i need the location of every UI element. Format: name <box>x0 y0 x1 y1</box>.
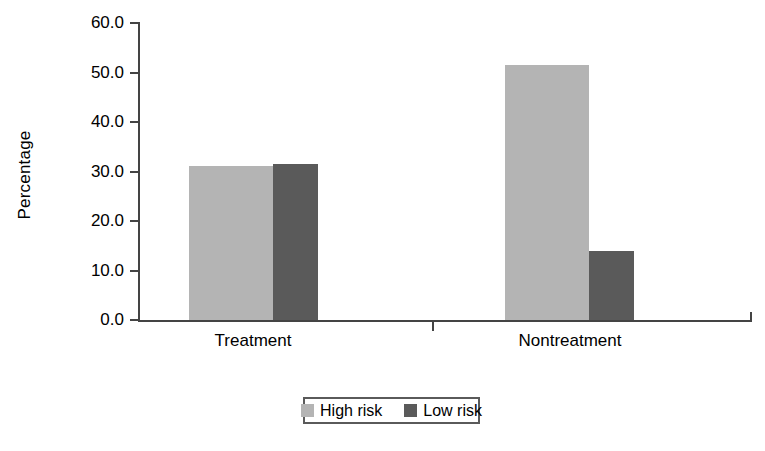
x-axis-line <box>138 320 752 322</box>
x-axis-label-treatment: Treatment <box>143 331 363 351</box>
x-axis-label-nontreatment: Nontreatment <box>460 331 680 351</box>
legend-swatch-low-risk <box>404 404 417 417</box>
legend-item-high-risk: High risk <box>301 403 382 419</box>
plot-area <box>0 0 765 320</box>
x-axis-end-tick <box>750 312 752 321</box>
bar-treatment-low-risk <box>273 164 318 320</box>
chart-legend: High risk Low risk <box>303 397 480 424</box>
legend-swatch-high-risk <box>301 404 314 417</box>
bar-treatment-high-risk <box>189 166 273 320</box>
legend-item-low-risk: Low risk <box>404 403 482 419</box>
x-axis-mid-tick <box>432 321 434 331</box>
legend-label-low-risk: Low risk <box>423 403 482 419</box>
bar-nontreatment-low-risk <box>589 251 634 320</box>
bar-nontreatment-high-risk <box>505 65 589 320</box>
bar-chart: Percentage 0.010.020.030.040.050.060.0 T… <box>0 0 765 451</box>
legend-label-high-risk: High risk <box>320 403 382 419</box>
